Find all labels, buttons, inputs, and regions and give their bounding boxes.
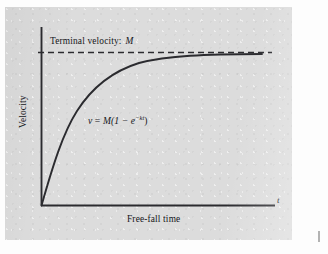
y-axis-label: Velocity (19, 82, 28, 142)
velocity-equation: v = M(1 − e−kt) (88, 116, 148, 126)
terminal-velocity-text: Terminal velocity: (50, 36, 122, 46)
terminal-velocity-symbol: M (122, 36, 134, 46)
equation-exponent: −kt (135, 114, 144, 121)
equation-equals: = (92, 115, 103, 126)
velocity-curve (42, 54, 263, 206)
velocity-vs-time-plot (5, 7, 292, 240)
x-axis-label: Free-fall time (127, 215, 180, 224)
equation-rhs-open: M(1 − e (103, 115, 135, 126)
figure-panel: Terminal velocity:M v = M(1 − e−kt) Free… (5, 7, 292, 240)
terminal-velocity-label: Terminal velocity:M (50, 37, 134, 46)
page-margin-mark (318, 231, 320, 242)
equation-rhs-close: ) (144, 115, 147, 126)
x-axis-symbol: t (277, 196, 280, 205)
figure-page: Terminal velocity:M v = M(1 − e−kt) Free… (0, 0, 328, 254)
